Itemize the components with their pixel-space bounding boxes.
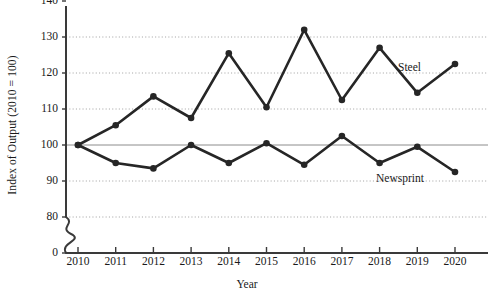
y-tick-label-130: 130	[24, 31, 58, 43]
data-point-steel-2014	[226, 50, 233, 57]
data-point-newsprint-2016	[301, 162, 308, 169]
data-point-newsprint-2015	[263, 140, 270, 147]
data-point-steel-2015	[263, 104, 270, 111]
series-label-steel: Steel	[398, 61, 421, 73]
data-point-newsprint-2010	[75, 142, 82, 149]
data-point-newsprint-2017	[339, 133, 346, 140]
series-label-newsprint: Newsprint	[376, 172, 424, 184]
data-point-newsprint-2018	[376, 160, 383, 167]
data-point-steel-2020	[452, 61, 459, 68]
data-point-steel-2016	[301, 27, 308, 34]
data-point-steel-2012	[150, 93, 157, 100]
y-tick-label-80: 80	[24, 211, 58, 223]
data-point-steel-2011	[112, 122, 119, 129]
x-tick-label-2020: 2020	[432, 256, 478, 268]
data-point-steel-2017	[339, 97, 346, 104]
y-tick-label-90: 90	[24, 175, 58, 187]
data-point-steel-2019	[414, 90, 421, 97]
data-point-newsprint-2013	[188, 142, 195, 149]
y-tick-label-140: 140	[24, 0, 58, 7]
data-point-newsprint-2011	[112, 160, 119, 167]
y-tick-label-120: 120	[24, 67, 58, 79]
tick-marks-group	[62, 1, 455, 253]
axes-group	[65, 6, 488, 253]
data-point-newsprint-2020	[452, 169, 459, 176]
data-point-newsprint-2012	[150, 165, 157, 172]
series-line-steel	[78, 30, 455, 145]
data-point-steel-2013	[188, 115, 195, 122]
data-point-steel-2018	[376, 45, 383, 52]
y-tick-label-100: 100	[24, 139, 58, 151]
axis-break-icon	[65, 217, 75, 253]
line-chart-figure: Index of Output (2010 = 100) Year 080901…	[0, 0, 494, 302]
y-tick-label-0: 0	[24, 247, 58, 259]
data-point-newsprint-2014	[226, 160, 233, 167]
data-point-newsprint-2019	[414, 144, 421, 151]
y-tick-label-110: 110	[24, 103, 58, 115]
data-series-group	[75, 27, 459, 176]
gridlines-group	[66, 37, 488, 217]
